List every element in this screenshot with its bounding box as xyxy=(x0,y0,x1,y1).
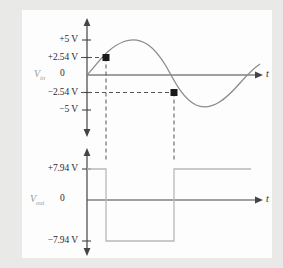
lower-axis-variable-subscript: out xyxy=(36,199,44,206)
marker-upper-threshold xyxy=(103,54,110,61)
upper-horizontal-axis xyxy=(87,72,263,79)
lower-tick-label-plus7-94: +7.94 V xyxy=(48,163,78,173)
upper-tick-label-plus2-54: +2.54 V xyxy=(48,52,78,62)
upper-axis-variable-subscript: in xyxy=(40,74,45,81)
lower-axis-variable-label: Vout xyxy=(30,193,44,206)
waveform-plot xyxy=(22,10,272,258)
square-wave xyxy=(87,169,251,241)
upper-axis-variable-label: Vin xyxy=(34,68,45,81)
lower-zero-label: 0 xyxy=(60,193,65,203)
sine-curve xyxy=(87,40,260,107)
lower-tick-label-minus7-94: −7.94 V xyxy=(48,235,78,245)
lower-time-axis-label: t xyxy=(266,193,269,204)
upper-zero-label: 0 xyxy=(60,68,65,78)
upper-tick-label-plus5: +5 V xyxy=(59,34,78,44)
upper-time-axis-label: t xyxy=(266,68,269,79)
lower-vertical-axis xyxy=(84,148,91,256)
figure-panel: +5 V +2.54 V −2.54 V −5 V Vin 0 t +7.94 … xyxy=(22,10,272,258)
marker-lower-threshold xyxy=(171,89,178,96)
upper-tick-label-minus5: −5 V xyxy=(59,104,78,114)
lower-horizontal-axis xyxy=(87,197,263,204)
upper-tick-label-minus2-54: −2.54 V xyxy=(48,87,78,97)
upper-vertical-axis xyxy=(84,18,91,137)
